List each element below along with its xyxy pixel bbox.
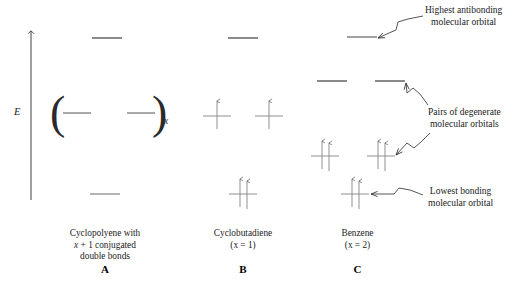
column-c-letter: C (300, 263, 415, 275)
left-parenthesis: ( (50, 90, 65, 136)
column-a-letter: A (25, 263, 185, 275)
column-c-caption-line2: (x = 2) (300, 240, 415, 252)
column-b-caption-line2: (x = 1) (183, 240, 303, 252)
column-b-caption-line1: Cyclobutadiene (183, 228, 303, 240)
column-a-caption-line2: x + 1 conjugated (25, 240, 185, 252)
leader-lowest-bonding (371, 188, 423, 195)
column-b-levels (203, 38, 283, 209)
column-c-caption: Benzene (x = 2) (300, 228, 415, 251)
column-a-caption: Cyclopolyene with x + 1 conjugated doubl… (25, 228, 185, 263)
level-c-lowest-bonding (341, 179, 369, 209)
column-b-caption: Cyclobutadiene (x = 1) (183, 228, 303, 251)
annotation-highest-antibonding: Highest antibonding molecular orbital (425, 5, 502, 29)
column-b-letter: B (183, 263, 303, 275)
annotation-lowest-bonding-line1: Lowest bonding (428, 186, 493, 198)
annotation-highest-antibonding-line1: Highest antibonding (425, 5, 502, 17)
level-b-degenerate-right (255, 101, 283, 129)
leader-pairs-degenerate-upper (406, 83, 428, 105)
energy-axis-label: E (14, 106, 20, 117)
right-parenthesis: ) (152, 90, 167, 136)
column-a-caption-line2-rest: + 1 conjugated (78, 240, 136, 250)
level-b-bonding-bottom (229, 179, 257, 209)
leader-pairs-degenerate-lower (396, 133, 430, 155)
column-a-caption-line3: double bonds (25, 251, 185, 263)
molecular-orbital-diagram: E ( ) x Cyclopolyene with x + 1 conjugat… (0, 0, 531, 285)
level-b-degenerate-left (203, 101, 231, 129)
column-c-caption-line1: Benzene (300, 228, 415, 240)
level-c-bonding-degenerate-right (367, 141, 395, 171)
column-a-caption-line1: Cyclopolyene with (25, 228, 185, 240)
column-c-levels (311, 37, 405, 209)
annotation-pairs-degenerate-line2: molecular orbitals (428, 119, 501, 131)
annotation-pairs-degenerate-line1: Pairs of degenerate (428, 107, 501, 119)
annotation-pairs-degenerate: Pairs of degenerate molecular orbitals (428, 107, 501, 131)
annotation-highest-antibonding-line2: molecular orbital (425, 17, 502, 29)
leader-highest-antibonding (378, 16, 423, 38)
annotation-lowest-bonding: Lowest bonding molecular orbital (428, 186, 493, 210)
column-a-levels (63, 38, 155, 194)
parenthesis-subscript: x (164, 116, 168, 126)
annotation-lowest-bonding-line2: molecular orbital (428, 198, 493, 210)
level-c-bonding-degenerate-left (311, 141, 339, 171)
